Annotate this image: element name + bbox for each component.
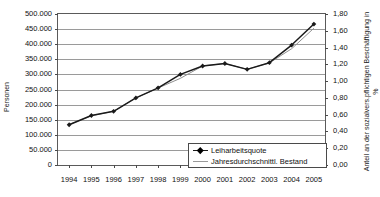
y-axis-left-tick-label: 150.000 [8, 116, 52, 124]
x-tick-mark [114, 165, 115, 168]
x-tick-mark [136, 165, 137, 168]
y-axis-left-tick-label: 200.000 [8, 101, 52, 109]
y-tick-mark-right [325, 14, 328, 15]
data-point-marker [222, 61, 227, 66]
legend-marker-diamond-icon [192, 146, 209, 155]
y-axis-left-tick-label: 0 [8, 161, 52, 169]
y-axis-right-tick-label: 1,60 [333, 27, 367, 35]
y-tick-mark-left [55, 165, 58, 166]
chart-container: Personen Anteil an der sozialvers.pflich… [0, 0, 380, 197]
y-axis-right-tick-label: 0,20 [333, 144, 367, 152]
y-tick-mark-right [325, 48, 328, 49]
y-axis-right-tick-label: 0,60 [333, 111, 367, 119]
y-axis-right-tick-label: 1,80 [333, 10, 367, 18]
y-axis-left-tick-label: 100.000 [8, 131, 52, 139]
data-point-marker [200, 64, 205, 69]
y-axis-left-tick-label: 400.000 [8, 40, 52, 48]
y-axis-left-tick-label: 350.000 [8, 55, 52, 63]
legend-label: Leiharbeitsquote [209, 146, 266, 155]
data-point-marker [245, 67, 250, 72]
y-tick-mark-right [325, 131, 328, 132]
x-tick-mark [158, 165, 159, 168]
y-tick-mark-right [325, 115, 328, 116]
legend-label: Jahresdurchschnittl. Bestand [209, 157, 307, 166]
legend-item-bestand: Jahresdurchschnittl. Bestand [192, 156, 323, 167]
x-tick-mark [180, 165, 181, 168]
y-axis-right-tick-label: 0,00 [333, 161, 367, 169]
data-point-marker [89, 113, 94, 118]
y-tick-mark-right [325, 81, 328, 82]
y-axis-left-tick-label: 250.000 [8, 86, 52, 94]
series-line-bestand [69, 28, 314, 124]
x-tick-mark [69, 165, 70, 168]
y-axis-left-tick-label: 300.000 [8, 70, 52, 78]
legend-item-leiharbeitsquote: Leiharbeitsquote [192, 145, 323, 156]
y-tick-mark-right [325, 31, 328, 32]
x-axis-tick-label: 2005 [300, 176, 328, 184]
y-axis-right-tick-label: 1,40 [333, 44, 367, 52]
legend-line-icon [192, 157, 209, 166]
y-axis-left-tick-label: 500.000 [8, 10, 52, 18]
data-point-marker [67, 122, 72, 127]
y-axis-right-tick-label: 0,80 [333, 94, 367, 102]
y-axis-left-tick-label: 50.000 [8, 146, 52, 154]
y-axis-right-tick-label: 0,40 [333, 127, 367, 135]
y-axis-left-tick-label: 450.000 [8, 25, 52, 33]
y-axis-right-tick-label: 1,20 [333, 60, 367, 68]
y-axis-right-tick-label: 1,00 [333, 77, 367, 85]
x-tick-mark [91, 165, 92, 168]
series-line-leiharbeitsquote [69, 24, 314, 125]
y-tick-mark-right [325, 64, 328, 65]
y-tick-mark-right [325, 98, 328, 99]
chart-legend: Leiharbeitsquote Jahresdurchschnittl. Be… [188, 143, 327, 168]
